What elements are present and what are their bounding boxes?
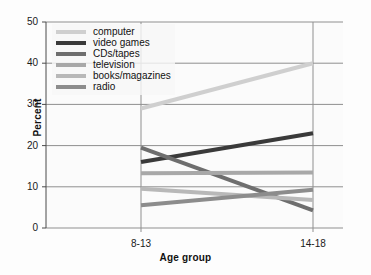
legend-color-swatch	[56, 52, 86, 56]
legend-color-swatch	[56, 85, 86, 89]
x-tick-label: 8-13	[121, 238, 161, 249]
legend-item: radio	[56, 81, 171, 92]
legend-item-label: computer	[93, 26, 135, 37]
chart-legend: computervideo gamesCDs/tapestelevisionbo…	[52, 24, 175, 95]
legend-item: books/magazines	[56, 70, 171, 81]
legend-color-swatch	[56, 30, 86, 34]
legend-color-swatch	[56, 41, 86, 45]
legend-item-label: books/magazines	[93, 70, 171, 81]
y-tick-label: 30	[10, 98, 38, 109]
legend-item-label: CDs/tapes	[93, 48, 140, 59]
legend-color-swatch	[56, 63, 86, 67]
legend-color-swatch	[56, 74, 86, 78]
line-chart: Percent Age group 50403020100 8-1314-18 …	[0, 0, 371, 275]
legend-item: television	[56, 59, 171, 70]
x-tick-label: 14-18	[293, 238, 333, 249]
series-line-television	[141, 172, 313, 173]
legend-item-label: television	[93, 59, 135, 70]
x-axis-label: Age group	[0, 252, 371, 263]
legend-item: computer	[56, 26, 171, 37]
y-tick-label: 40	[10, 57, 38, 68]
legend-item-label: radio	[93, 81, 115, 92]
y-tick-label: 50	[10, 16, 38, 27]
y-tick-label: 10	[10, 181, 38, 192]
legend-item: CDs/tapes	[56, 48, 171, 59]
legend-item: video games	[56, 37, 171, 48]
legend-item-label: video games	[93, 37, 150, 48]
y-tick-label: 0	[10, 222, 38, 233]
y-tick-label: 20	[10, 140, 38, 151]
